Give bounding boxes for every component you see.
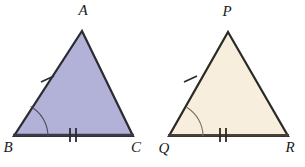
vertex-label-a: A	[77, 2, 88, 18]
figure-background	[0, 0, 305, 167]
vertex-label-q: Q	[159, 140, 170, 156]
vertex-label-c: C	[131, 139, 142, 155]
vertex-label-p: P	[221, 3, 231, 19]
geometry-figure: A C B P R Q	[0, 0, 305, 167]
vertex-label-b: B	[3, 139, 12, 155]
vertex-label-r: R	[284, 139, 294, 155]
